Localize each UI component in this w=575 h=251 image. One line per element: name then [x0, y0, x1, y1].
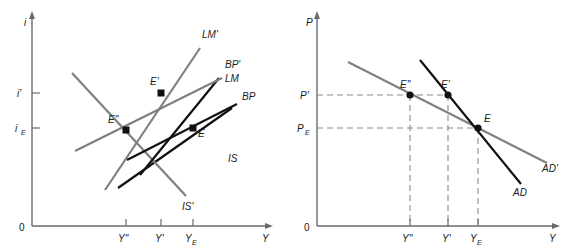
curve-label-lm: LM: [225, 73, 240, 84]
curve-label-lm-prime: LM': [202, 29, 219, 40]
curve-is-prime: [72, 73, 186, 196]
curve-label-is: IS: [228, 153, 238, 164]
curve-label-is-prime: IS': [182, 201, 194, 212]
curve-label-bp-prime: BP': [225, 59, 241, 70]
point-label-e-prime: E': [441, 79, 451, 90]
left-x-axis-label: Y: [262, 233, 270, 244]
right-x-tick-label-y-double-prime: Y": [402, 233, 413, 244]
left-origin-label: 0: [19, 222, 25, 233]
left-y-tick-label-i-e-main: i: [15, 123, 18, 134]
left-y-axis-arrow: [29, 11, 35, 19]
point-marker-e-prime: [444, 91, 451, 98]
right-y-tick-label-p-prime: P': [300, 90, 310, 101]
curve-label-bp: BP: [242, 91, 256, 102]
right-y-axis-arrow: [314, 11, 320, 19]
economics-figure: LM' BP' LM BP IS IS' E E' E" i Y 0 i' i …: [0, 0, 575, 251]
point-marker-e-prime: [158, 90, 165, 97]
right-x-tick-label-y-prime: Y': [442, 233, 452, 244]
right-x-ticks: [410, 219, 478, 226]
left-x-tick-label-y-double-prime: Y": [118, 233, 129, 244]
point-marker-e-double-prime: [406, 91, 413, 98]
left-y-ticks: [32, 93, 40, 128]
point-label-e-double-prime: E": [108, 114, 119, 125]
right-y-tick-label-p-e-main: P: [297, 123, 304, 134]
left-y-tick-label-i-e-sub: E: [21, 129, 26, 136]
curve-bp-prime: [75, 78, 222, 151]
point-label-e: E: [484, 113, 491, 124]
point-label-e: E: [198, 128, 205, 139]
left-y-tick-label-i-prime: i': [17, 88, 22, 99]
point-label-e-double-prime: E": [400, 79, 411, 90]
panel-is-lm-bp: LM' BP' LM BP IS IS' E E' E" i Y 0 i' i …: [0, 0, 285, 251]
curve-label-ad: AD: [512, 187, 527, 198]
right-x-axis-label: Y: [549, 233, 557, 244]
right-origin-label: 0: [304, 222, 310, 233]
right-x-axis-arrow: [552, 223, 560, 229]
point-marker-e: [474, 124, 481, 131]
left-y-tick-label-i-e: i E: [15, 123, 26, 136]
left-x-axis-arrow: [265, 223, 273, 229]
right-x-tick-label-y-e-sub: E: [477, 239, 482, 246]
right-y-tick-label-p-e-sub: E: [305, 129, 310, 136]
panel-aggregate-demand: AD' AD E" E' E P Y 0 P' P E Y" Y' Y E: [285, 0, 575, 251]
right-y-tick-label-p-e: P E: [297, 123, 310, 136]
curve-label-ad-prime: AD': [541, 163, 559, 174]
left-y-axis-label: i: [24, 17, 27, 28]
left-x-tick-label-y-e-sub: E: [192, 239, 197, 246]
curve-ad: [420, 60, 521, 184]
left-x-tick-label-y-e: Y E: [185, 233, 197, 246]
point-marker-e-double-prime: [123, 127, 130, 134]
point-marker-e: [190, 125, 197, 132]
point-label-e-prime: E': [150, 76, 160, 87]
right-x-tick-label-y-e: Y E: [470, 233, 482, 246]
left-x-tick-label-y-prime: Y': [155, 233, 165, 244]
right-y-axis-label: P: [306, 17, 313, 28]
left-x-ticks: [126, 219, 193, 226]
